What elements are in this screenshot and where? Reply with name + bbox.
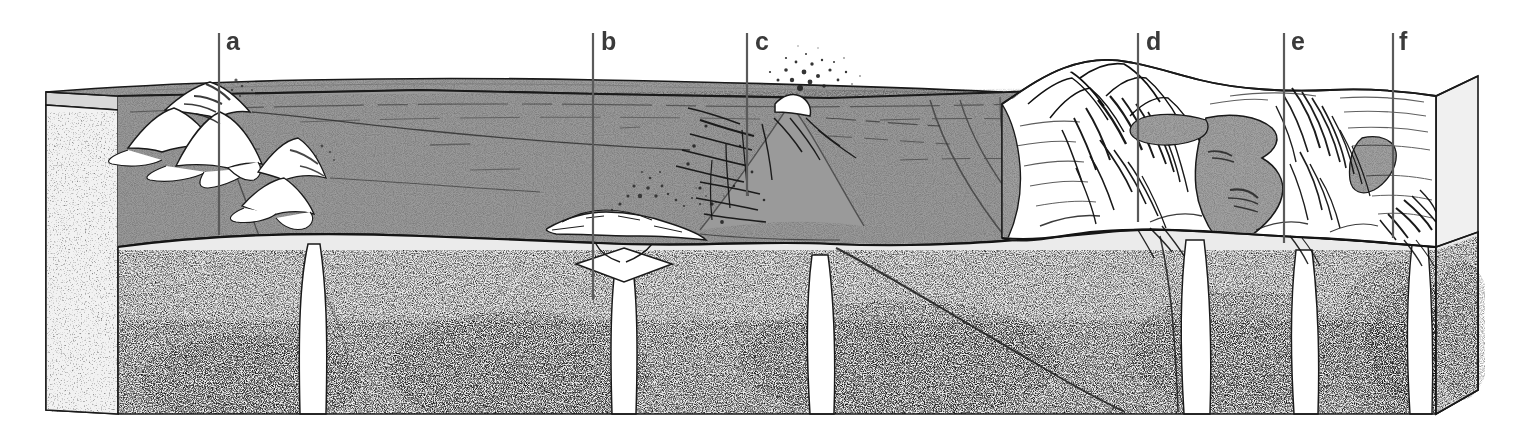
label-a: a [226,29,240,54]
diagram-stage: a b c d e f [0,0,1523,437]
block-diagram-figure [0,0,1523,437]
label-f: f [1399,29,1407,54]
label-e: e [1291,29,1305,54]
label-b: b [601,29,616,54]
left-side-face [46,92,118,414]
label-c: c [755,29,769,54]
label-d: d [1146,29,1161,54]
